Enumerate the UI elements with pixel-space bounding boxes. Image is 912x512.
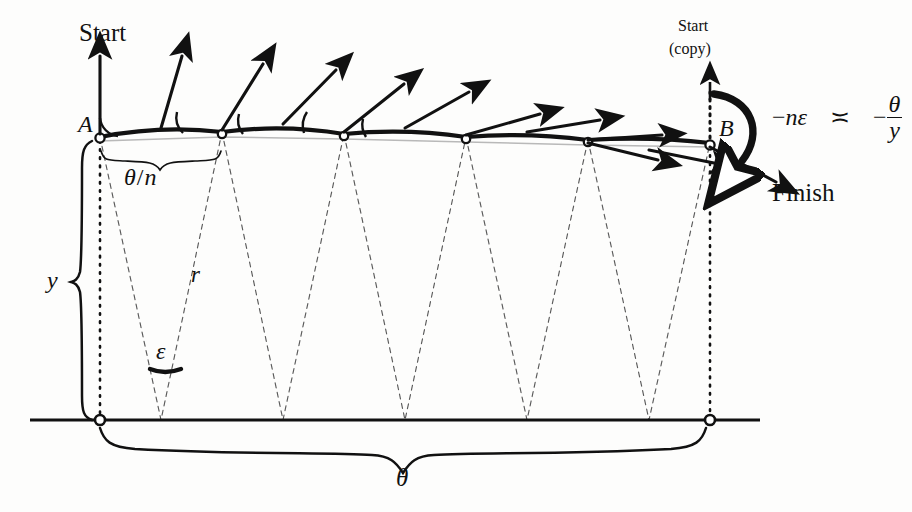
relation-rhs-denominator: y [887,117,903,143]
point-a-label: A [78,112,93,136]
finish-label: Finish [772,180,835,205]
theta-over-n-denominator: n [144,164,156,190]
vector-2 [222,64,263,130]
brace-y-height [71,141,92,420]
vector-3b [405,92,469,128]
start-copy-label-line2: (copy) [669,41,711,57]
tangent-vectors [100,56,776,182]
epsilon-angle-arc [150,369,181,372]
theta-over-n-label: θ/n [124,165,156,189]
relation-lhs-minus: − [772,104,786,130]
relation-rhs-fraction: θ y [887,92,903,142]
total-theta-label: θ [396,465,408,490]
start-label: Start [79,20,126,45]
radius-r-label: r [191,263,200,286]
theta-over-n-numerator: θ [124,164,136,190]
geometry-figure: Start Start (copy) Finish A B y r θ/n ε … [0,0,912,512]
baseline-point-right [705,415,715,425]
relation-rhs-minus: − [873,104,887,130]
epsilon-label: ε [156,339,165,363]
start-copy-label-line1: Start [678,18,708,34]
relation-lhs-epsilon: ε [798,104,807,130]
figure-canvas [0,0,912,512]
vector-3 [344,84,404,132]
baseline-point-left [95,415,105,425]
asymptotic-relation: −nε ≍ − θ y [772,92,902,142]
relation-asymptotic-symbol: ≍ [830,104,850,130]
height-y-label: y [47,268,58,292]
vector-2b [283,70,336,124]
brace-theta-over-n [101,151,221,170]
point-b-label: B [719,116,734,140]
relation-rhs-numerator: θ [887,92,903,117]
vector-4b [527,120,600,132]
relation-lhs-n: n [786,104,798,130]
vector-1b [161,56,182,128]
